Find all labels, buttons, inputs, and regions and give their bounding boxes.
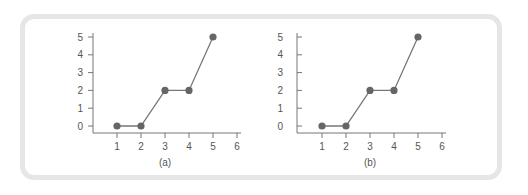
data-point — [342, 122, 349, 129]
y-tick-label: 4 — [77, 49, 83, 60]
y-tick-label: 3 — [77, 67, 83, 78]
x-tick-label: 3 — [367, 141, 373, 152]
data-point — [161, 87, 168, 94]
y-tick-label: 4 — [277, 49, 283, 60]
chart-a: 012345123456(a) — [77, 32, 241, 169]
y-tick-label: 5 — [277, 32, 283, 43]
x-tick-label: 1 — [319, 141, 325, 152]
x-tick-label: 4 — [391, 141, 397, 152]
chart-b: 012345123456(b) — [277, 32, 446, 169]
data-point — [366, 87, 373, 94]
x-tick-label: 2 — [138, 141, 144, 152]
x-tick-label: 2 — [343, 141, 349, 152]
data-point — [318, 122, 325, 129]
y-tick-label: 0 — [277, 121, 283, 132]
data-point — [390, 87, 397, 94]
figure-canvas: 012345123456(a) 012345123456(b) — [0, 0, 528, 195]
data-point — [414, 33, 421, 40]
data-point — [209, 33, 216, 40]
y-tick-label: 2 — [277, 85, 283, 96]
x-tick-label: 6 — [234, 141, 240, 152]
x-tick-label: 5 — [210, 141, 216, 152]
x-tick-label: 3 — [162, 141, 168, 152]
data-line — [117, 37, 213, 126]
y-tick-label: 5 — [77, 32, 83, 43]
y-tick-label: 3 — [277, 67, 283, 78]
x-tick-label: 4 — [186, 141, 192, 152]
y-tick-label: 1 — [77, 103, 83, 114]
chart-caption: (a) — [159, 157, 171, 168]
y-tick-label: 2 — [77, 85, 83, 96]
x-tick-label: 5 — [415, 141, 421, 152]
y-tick-label: 0 — [77, 121, 83, 132]
chart-caption: (b) — [364, 157, 376, 168]
y-tick-label: 1 — [277, 103, 283, 114]
data-point — [185, 87, 192, 94]
data-point — [113, 122, 120, 129]
x-tick-label: 1 — [114, 141, 120, 152]
data-point — [137, 122, 144, 129]
data-line — [322, 37, 418, 126]
x-tick-label: 6 — [439, 141, 445, 152]
